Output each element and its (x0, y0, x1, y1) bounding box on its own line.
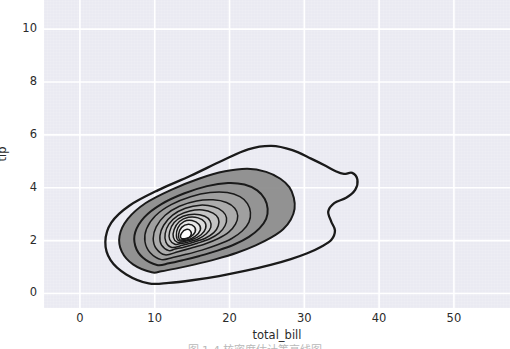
y-tick-label: 10 (0, 23, 37, 35)
x-tick-label: 50 (447, 313, 462, 325)
y-tick-label: 6 (0, 129, 37, 141)
x-tick-label: 20 (222, 313, 237, 325)
y-tick-label: 8 (0, 76, 37, 88)
x-tick-label: 10 (147, 313, 162, 325)
plot-area (44, 0, 510, 308)
y-tick-label: 4 (0, 182, 37, 194)
y-tick-label: 0 (0, 288, 37, 300)
x-tick-label: 30 (297, 313, 312, 325)
figure-caption-cropped: 图 1-4 核密度估计等高线图 (0, 341, 510, 349)
x-axis-title: total_bill (44, 328, 510, 342)
figure-container: 01020304050 0246810 total_bill tip 图 1-4… (0, 0, 510, 349)
kde-contour-lines (44, 0, 510, 308)
x-tick-label: 40 (372, 313, 387, 325)
y-tick-label: 2 (0, 235, 37, 247)
x-tick-label: 0 (76, 313, 83, 325)
y-axis-title: tip (0, 146, 9, 161)
